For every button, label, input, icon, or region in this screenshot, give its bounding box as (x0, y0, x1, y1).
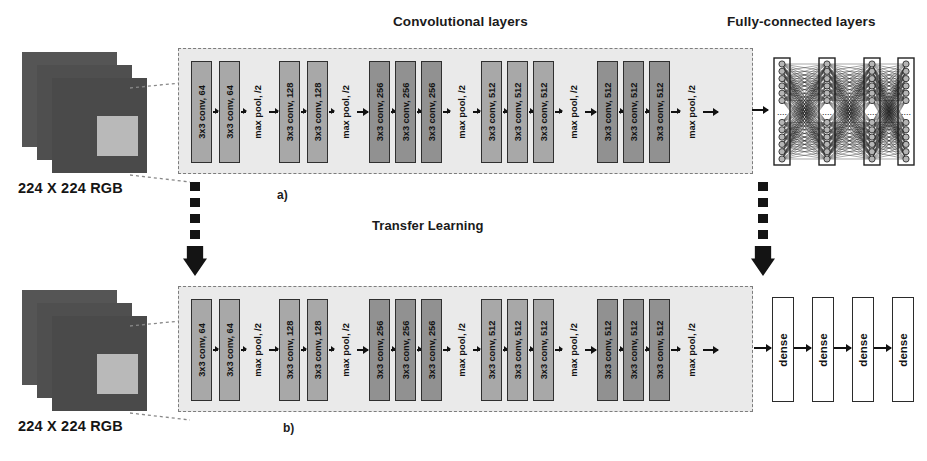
conv-block-label: 3x3 conv, 256 (401, 321, 411, 379)
conv-block: 3x3 conv, 64 (219, 61, 240, 163)
conv-block-label: 3x3 conv, 128 (285, 83, 295, 141)
svg-text:....: .... (901, 107, 911, 117)
conv-block-label: 3x3 conv, 512 (487, 83, 497, 141)
fully-connected-network-diagram: ................ (766, 54, 916, 169)
flow-arrow (269, 111, 278, 113)
conv-block-label: 3x3 conv, 512 (655, 321, 665, 379)
flow-arrow (703, 349, 718, 351)
flow-arrow (703, 111, 718, 113)
conv-block: 3x3 conv, 128 (279, 61, 300, 163)
conv-block-label: 3x3 conv, 128 (285, 321, 295, 379)
max-pool-label-group: max pool, /2 (335, 61, 357, 163)
conv-block-label: 3x3 conv, 512 (513, 321, 523, 379)
input-receptive-field-patch (97, 116, 138, 156)
conv-block-label: 3x3 conv, 64 (225, 85, 235, 138)
dense-layer-block: dense (892, 297, 914, 402)
input-receptive-field-patch (97, 354, 138, 394)
flow-arrow (555, 349, 562, 351)
conv-block: 3x3 conv, 256 (395, 299, 416, 401)
flow-arrow (241, 111, 246, 113)
input-image-stack-bottom: 224 X 224 RGB (18, 286, 168, 426)
conv-block-label: 3x3 conv, 512 (629, 83, 639, 141)
conv-block-label: 3x3 conv, 64 (197, 323, 207, 376)
panel-label-a: a) (277, 188, 288, 202)
heading-transfer-learning: Transfer Learning (372, 218, 484, 233)
conv-block: 3x3 conv, 512 (597, 299, 618, 401)
conv-block: 3x3 conv, 256 (369, 299, 390, 401)
conv-block-label: 3x3 conv, 512 (655, 83, 665, 141)
conv-block: 3x3 conv, 512 (649, 61, 670, 163)
max-pool-label: max pool, /2 (687, 85, 697, 139)
transfer-arrow-right (756, 182, 770, 280)
conv-block-label: 3x3 conv, 64 (197, 85, 207, 138)
flow-arrow (834, 347, 851, 349)
dense-layer-block: dense (852, 297, 874, 402)
heading-fully-connected-layers: Fully-connected layers (727, 14, 876, 29)
max-pool-label: max pool, /2 (569, 323, 579, 377)
flow-arrow (213, 111, 218, 113)
flow-arrow (357, 111, 368, 113)
flow-arrow (301, 349, 306, 351)
conv-block-label: 3x3 conv, 128 (313, 321, 323, 379)
dense-layer-label: dense (777, 333, 789, 366)
conv-block: 3x3 conv, 512 (481, 299, 502, 401)
flow-arrow (241, 349, 246, 351)
conv-block: 3x3 conv, 64 (219, 299, 240, 401)
vgg-layer-row-a: 3x3 conv, 643x3 conv, 64max pool, /23x3 … (179, 49, 752, 173)
conv-block-label: 3x3 conv, 256 (427, 83, 437, 141)
flow-arrow (301, 111, 306, 113)
max-pool-label: max pool, /2 (253, 85, 263, 139)
conv-block-label: 3x3 conv, 512 (603, 321, 613, 379)
conv-block-label: 3x3 conv, 256 (427, 321, 437, 379)
svg-text:....: .... (867, 107, 877, 117)
dense-layer-label: dense (817, 333, 829, 366)
dense-layer-label: dense (857, 333, 869, 366)
conv-block-label: 3x3 conv, 256 (375, 83, 385, 141)
flow-arrow (754, 347, 771, 349)
flow-arrow (473, 111, 480, 113)
flow-arrow (269, 349, 278, 351)
conv-block: 3x3 conv, 512 (623, 299, 644, 401)
panel-label-b: b) (283, 421, 294, 435)
vgg-layer-row-b: 3x3 conv, 643x3 conv, 64max pool, /23x3 … (179, 287, 752, 411)
conv-block: 3x3 conv, 128 (279, 299, 300, 401)
flow-arrow (752, 109, 768, 111)
max-pool-label: max pool, /2 (457, 323, 467, 377)
conv-block: 3x3 conv, 128 (307, 299, 328, 401)
conv-block: 3x3 conv, 512 (533, 299, 554, 401)
max-pool-label: max pool, /2 (341, 323, 351, 377)
transfer-arrow-left (188, 182, 202, 280)
max-pool-label-group: max pool, /2 (247, 299, 269, 401)
conv-block: 3x3 conv, 512 (481, 61, 502, 163)
conv-block-label: 3x3 conv, 512 (629, 321, 639, 379)
conv-block: 3x3 conv, 128 (307, 61, 328, 163)
conv-block: 3x3 conv, 64 (191, 299, 212, 401)
flow-arrow (555, 111, 562, 113)
conv-block-label: 3x3 conv, 128 (313, 83, 323, 141)
max-pool-label-group: max pool, /2 (681, 61, 703, 163)
conv-block: 3x3 conv, 512 (649, 299, 670, 401)
flow-arrow (443, 111, 450, 113)
dense-layer-block: dense (772, 297, 794, 402)
max-pool-label-group: max pool, /2 (451, 299, 473, 401)
conv-block: 3x3 conv, 512 (507, 61, 528, 163)
conv-block: 3x3 conv, 512 (623, 61, 644, 163)
max-pool-label-group: max pool, /2 (563, 61, 585, 163)
conv-block-label: 3x3 conv, 512 (513, 83, 523, 141)
conv-panel-b: 3x3 conv, 643x3 conv, 64max pool, /23x3 … (178, 286, 753, 412)
flow-arrow (671, 349, 680, 351)
svg-text:....: .... (777, 107, 787, 117)
max-pool-label-group: max pool, /2 (451, 61, 473, 163)
conv-block-label: 3x3 conv, 512 (603, 83, 613, 141)
conv-block: 3x3 conv, 64 (191, 61, 212, 163)
conv-block: 3x3 conv, 256 (421, 61, 442, 163)
conv-block-label: 3x3 conv, 256 (401, 83, 411, 141)
max-pool-label-group: max pool, /2 (247, 61, 269, 163)
conv-block-label: 3x3 conv, 512 (487, 321, 497, 379)
max-pool-label: max pool, /2 (457, 85, 467, 139)
flow-arrow (874, 347, 891, 349)
flow-arrow (443, 349, 450, 351)
flow-arrow (794, 347, 811, 349)
flow-arrow (671, 111, 680, 113)
conv-block: 3x3 conv, 256 (369, 61, 390, 163)
